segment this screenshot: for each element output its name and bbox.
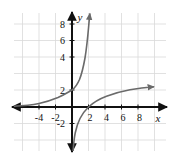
x-tick-label-2: 2: [88, 112, 93, 123]
y-tick-label-6: 6: [60, 35, 65, 46]
y-tick-label--2: -2: [57, 118, 65, 129]
y-tick-label-8: 8: [60, 19, 65, 30]
y-tick-label-4: 4: [60, 52, 65, 63]
coordinate-plane-svg: -4 -2 2 4 6 8 8 6 4 2 -2 x y: [0, 0, 178, 162]
graph-figure: -4 -2 2 4 6 8 8 6 4 2 -2 x y: [0, 0, 178, 162]
x-tick-label--4: -4: [35, 112, 43, 123]
y-axis-label: y: [77, 11, 83, 23]
x-axis-label: x: [155, 112, 161, 124]
x-tick-label-8: 8: [137, 112, 142, 123]
x-tick-label-6: 6: [121, 112, 126, 123]
y-tick-label-2: 2: [60, 85, 65, 96]
x-tick-label-4: 4: [104, 112, 109, 123]
